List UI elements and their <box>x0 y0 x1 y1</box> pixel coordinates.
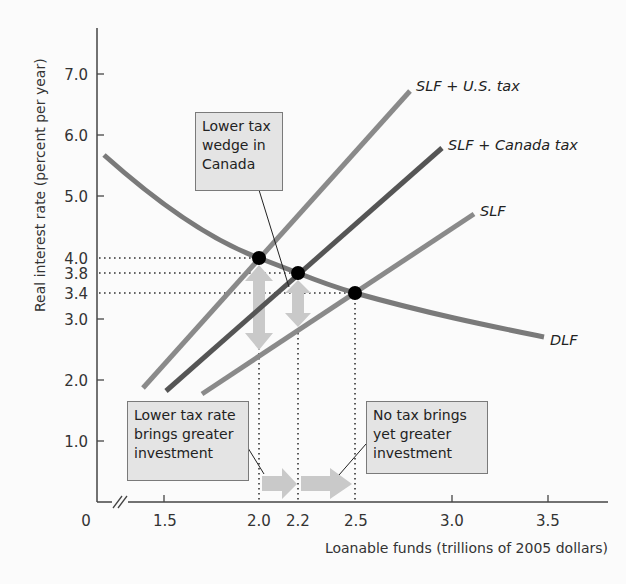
right-arrow-1-icon <box>262 468 297 499</box>
equilibrium-point-us <box>252 251 266 265</box>
canada-wedge-arrow-icon <box>285 280 311 327</box>
label-slf: SLF <box>480 203 506 219</box>
y-tick-3: 3.0 <box>64 311 88 329</box>
y-tick-3-8: 3.8 <box>64 265 88 283</box>
x-axis-title: Loanable funds (trillions of 2005 dollar… <box>325 540 608 556</box>
label-slf-canada-tax: SLF + Canada tax <box>448 137 578 153</box>
equilibrium-point-no-tax <box>348 286 362 300</box>
dlf-curve <box>104 155 544 337</box>
label-dlf: DLF <box>550 332 578 348</box>
y-tick-6: 6.0 <box>64 127 88 145</box>
x-ticks <box>164 495 548 502</box>
x-tick-3-0: 3.0 <box>440 512 464 530</box>
right-arrow-2-icon <box>301 468 352 499</box>
x-tick-1-5: 1.5 <box>153 512 177 530</box>
y-tick-7: 7.0 <box>64 66 88 84</box>
y-tick-2: 2.0 <box>64 372 88 390</box>
label-slf-us-tax: SLF + U.S. tax <box>416 78 520 94</box>
callout-tax-wedge: Lower tax wedge in Canada <box>195 112 283 191</box>
x-tick-0: 0 <box>81 512 91 530</box>
x-tick-2-2: 2.2 <box>286 512 310 530</box>
x-tick-3-5: 3.5 <box>536 512 560 530</box>
x-tick-2-0: 2.0 <box>247 512 271 530</box>
x-tick-2-5: 2.5 <box>344 512 368 530</box>
callout-lower-tax-rate: Lower tax rate brings greater investment <box>127 401 249 481</box>
chart-canvas: 7.0 6.0 5.0 4.0 3.8 3.4 3.0 2.0 1.0 0 1.… <box>0 0 626 584</box>
y-axis-title: Real interest rate (percent per year) <box>32 58 48 312</box>
y-tick-5: 5.0 <box>64 188 88 206</box>
callout-no-tax: No tax brings yet greater investment <box>366 401 488 474</box>
axis-break-icon <box>112 494 128 508</box>
investment-arrows <box>262 468 352 499</box>
equilibrium-point-canada <box>291 266 305 280</box>
y-tick-1: 1.0 <box>64 433 88 451</box>
y-tick-3-4: 3.4 <box>64 285 88 303</box>
